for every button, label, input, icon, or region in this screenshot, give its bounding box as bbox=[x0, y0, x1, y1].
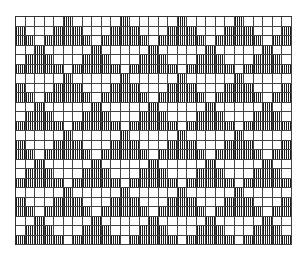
empty-cell bbox=[254, 160, 264, 170]
empty-cell bbox=[102, 160, 112, 170]
filled-cell bbox=[206, 160, 216, 170]
empty-cell bbox=[102, 17, 112, 27]
filled-cell bbox=[26, 112, 36, 122]
filled-cell bbox=[254, 93, 264, 103]
filled-cell bbox=[121, 27, 131, 37]
filled-cell bbox=[216, 36, 226, 46]
empty-cell bbox=[54, 74, 64, 84]
empty-cell bbox=[121, 122, 131, 132]
empty-cell bbox=[140, 188, 150, 198]
empty-cell bbox=[140, 198, 150, 208]
filled-cell bbox=[263, 55, 273, 65]
filled-cell bbox=[111, 198, 121, 208]
empty-cell bbox=[273, 74, 283, 84]
empty-cell bbox=[206, 188, 216, 198]
filled-cell bbox=[187, 65, 197, 75]
empty-cell bbox=[168, 74, 178, 84]
filled-cell bbox=[83, 36, 93, 46]
empty-cell bbox=[235, 122, 245, 132]
filled-cell bbox=[273, 65, 283, 75]
filled-cell bbox=[26, 65, 36, 75]
filled-cell bbox=[235, 131, 245, 141]
filled-cell bbox=[102, 65, 112, 75]
empty-cell bbox=[83, 160, 93, 170]
empty-cell bbox=[149, 17, 159, 27]
empty-cell bbox=[54, 217, 64, 227]
empty-cell bbox=[111, 131, 121, 141]
filled-cell bbox=[92, 103, 102, 113]
empty-cell bbox=[102, 27, 112, 37]
empty-cell bbox=[263, 198, 273, 208]
filled-cell bbox=[64, 17, 74, 27]
filled-cell bbox=[83, 179, 93, 189]
empty-cell bbox=[102, 188, 112, 198]
filled-cell bbox=[92, 217, 102, 227]
filled-cell bbox=[178, 131, 188, 141]
empty-cell bbox=[149, 27, 159, 37]
weaving-grid bbox=[15, 16, 292, 245]
filled-cell bbox=[130, 141, 140, 151]
filled-cell bbox=[206, 46, 216, 56]
filled-cell bbox=[178, 84, 188, 94]
filled-cell bbox=[64, 198, 74, 208]
empty-cell bbox=[168, 131, 178, 141]
empty-cell bbox=[282, 217, 292, 227]
empty-cell bbox=[178, 169, 188, 179]
filled-cell bbox=[197, 226, 207, 236]
empty-cell bbox=[225, 217, 235, 227]
empty-cell bbox=[197, 188, 207, 198]
filled-cell bbox=[216, 207, 226, 217]
filled-cell bbox=[92, 169, 102, 179]
empty-cell bbox=[45, 131, 55, 141]
filled-cell bbox=[197, 55, 207, 65]
filled-cell bbox=[197, 236, 207, 246]
empty-cell bbox=[92, 188, 102, 198]
empty-cell bbox=[111, 103, 121, 113]
empty-cell bbox=[206, 93, 216, 103]
filled-cell bbox=[64, 207, 74, 217]
filled-cell bbox=[130, 93, 140, 103]
empty-cell bbox=[273, 131, 283, 141]
empty-cell bbox=[206, 131, 216, 141]
filled-cell bbox=[35, 65, 45, 75]
filled-cell bbox=[273, 55, 283, 65]
empty-cell bbox=[225, 160, 235, 170]
empty-cell bbox=[235, 65, 245, 75]
filled-cell bbox=[83, 65, 93, 75]
empty-cell bbox=[197, 198, 207, 208]
empty-cell bbox=[244, 103, 254, 113]
filled-cell bbox=[16, 122, 26, 132]
filled-cell bbox=[206, 226, 216, 236]
empty-cell bbox=[92, 150, 102, 160]
empty-cell bbox=[92, 27, 102, 37]
empty-cell bbox=[83, 27, 93, 37]
filled-cell bbox=[111, 236, 121, 246]
empty-cell bbox=[140, 27, 150, 37]
empty-cell bbox=[263, 141, 273, 151]
filled-cell bbox=[178, 141, 188, 151]
empty-cell bbox=[140, 141, 150, 151]
empty-cell bbox=[140, 103, 150, 113]
filled-cell bbox=[216, 169, 226, 179]
filled-cell bbox=[254, 36, 264, 46]
empty-cell bbox=[206, 74, 216, 84]
empty-cell bbox=[159, 141, 169, 151]
filled-cell bbox=[282, 122, 292, 132]
filled-cell bbox=[149, 217, 159, 227]
filled-cell bbox=[273, 226, 283, 236]
empty-cell bbox=[149, 36, 159, 46]
filled-cell bbox=[64, 188, 74, 198]
filled-cell bbox=[121, 74, 131, 84]
empty-cell bbox=[73, 112, 83, 122]
empty-cell bbox=[130, 103, 140, 113]
filled-cell bbox=[26, 55, 36, 65]
empty-cell bbox=[54, 188, 64, 198]
empty-cell bbox=[206, 150, 216, 160]
empty-cell bbox=[16, 226, 26, 236]
empty-cell bbox=[130, 226, 140, 236]
filled-cell bbox=[225, 141, 235, 151]
empty-cell bbox=[168, 17, 178, 27]
filled-cell bbox=[73, 65, 83, 75]
empty-cell bbox=[83, 198, 93, 208]
filled-cell bbox=[168, 179, 178, 189]
